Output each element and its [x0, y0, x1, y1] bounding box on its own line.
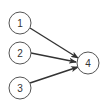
edges	[30, 28, 78, 83]
node-2: 2	[9, 42, 31, 64]
graph-diagram: 1 2 3 4	[0, 0, 107, 103]
node-1-label: 1	[17, 18, 23, 29]
edge-2-to-4	[31, 53, 76, 62]
edge-1-to-4	[30, 28, 78, 58]
edge-3-to-4	[30, 67, 78, 83]
node-1: 1	[9, 12, 31, 34]
node-3-label: 3	[17, 83, 23, 94]
node-4-label: 4	[85, 58, 91, 69]
node-4: 4	[77, 52, 99, 74]
node-3: 3	[9, 77, 31, 99]
node-2-label: 2	[17, 48, 23, 59]
